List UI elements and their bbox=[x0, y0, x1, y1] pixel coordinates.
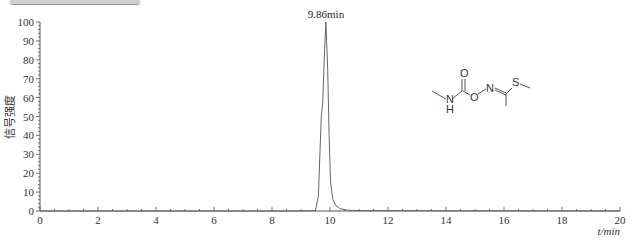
y-tick-label: 50 bbox=[23, 111, 35, 123]
x-tick-label: 6 bbox=[211, 214, 217, 226]
y-ticks: 0102030405060708090100 bbox=[18, 16, 41, 217]
y-tick-label: 80 bbox=[23, 54, 35, 66]
x-tick-label: 12 bbox=[383, 214, 394, 226]
atom-n-oxime: N bbox=[486, 82, 494, 94]
y-tick-label: 0 bbox=[29, 205, 35, 217]
y-axis-title: 信号强度 bbox=[3, 95, 16, 139]
y-tick-label: 60 bbox=[23, 92, 35, 104]
peak-retention-label: 9.86min bbox=[308, 8, 345, 20]
y-tick-label: 20 bbox=[23, 167, 35, 179]
y-tick-label: 30 bbox=[23, 148, 35, 160]
x-tick-label: 16 bbox=[499, 214, 511, 226]
y-tick-label: 100 bbox=[18, 16, 35, 28]
chromatogram-trace bbox=[40, 22, 620, 211]
bond bbox=[478, 89, 486, 94]
bond bbox=[432, 91, 446, 99]
chromatogram-chart: 02468101214161820 0102030405060708090100… bbox=[0, 0, 632, 240]
x-tick-label: 4 bbox=[153, 214, 159, 226]
x-ticks: 02468101214161820 bbox=[37, 207, 626, 226]
y-tick-label: 40 bbox=[23, 129, 35, 141]
atom-s: S bbox=[512, 76, 519, 88]
x-tick-label: 18 bbox=[557, 214, 569, 226]
bond bbox=[520, 84, 530, 88]
atom-o-carbonyl: O bbox=[460, 67, 469, 79]
x-tick-label: 14 bbox=[441, 214, 453, 226]
bond bbox=[506, 88, 512, 94]
x-axis-title: t/min bbox=[597, 225, 620, 237]
atom-h-amide: H bbox=[446, 103, 454, 115]
x-tick-label: 8 bbox=[269, 214, 275, 226]
axes bbox=[40, 22, 620, 211]
atom-o-ester: O bbox=[470, 91, 479, 103]
x-tick-label: 2 bbox=[95, 214, 101, 226]
y-tick-label: 10 bbox=[23, 186, 35, 198]
bond bbox=[463, 91, 470, 95]
chemical-structure-inset: O N H O N S bbox=[432, 67, 530, 115]
y-tick-label: 70 bbox=[23, 73, 35, 85]
y-tick-label: 90 bbox=[23, 35, 35, 47]
x-tick-label: 0 bbox=[37, 214, 43, 226]
x-tick-label: 10 bbox=[325, 214, 337, 226]
